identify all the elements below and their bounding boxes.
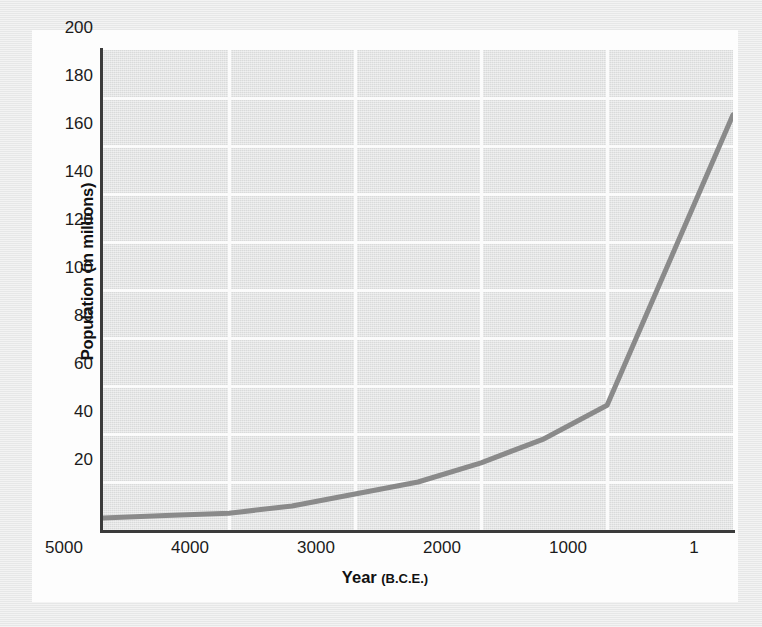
x-axis-title-sub: (B.C.E.) xyxy=(381,571,428,586)
chart-card: Population (in millions) 200 180 160 140… xyxy=(32,30,738,602)
y-tick-label-180: 180 xyxy=(41,66,93,86)
y-tick-label-160: 160 xyxy=(41,114,93,134)
plot-area xyxy=(103,50,733,530)
y-tick-label-80: 80 xyxy=(41,306,93,326)
y-tick-label-100: 100 xyxy=(41,258,93,278)
y-tick-label-60: 60 xyxy=(41,354,93,374)
y-tick-label-20: 20 xyxy=(41,450,93,470)
y-tick-label-140: 140 xyxy=(41,162,93,182)
y-tick-label-120: 120 xyxy=(41,210,93,230)
y-tick-label-40: 40 xyxy=(41,402,93,422)
x-tick-label-1000: 1000 xyxy=(528,538,608,558)
x-axis-title-main: Year xyxy=(342,568,377,586)
figure-page: Population (in millions) 200 180 160 140… xyxy=(0,0,762,627)
plot-area-wrapper xyxy=(103,50,733,530)
x-tick-label-2000: 2000 xyxy=(402,538,482,558)
x-tick-label-5000: 5000 xyxy=(24,538,104,558)
y-tick-label-200: 200 xyxy=(41,18,93,38)
x-axis-line xyxy=(101,530,735,533)
x-tick-label-3000: 3000 xyxy=(276,538,356,558)
x-tick-label-1: 1 xyxy=(654,538,734,558)
x-tick-label-4000: 4000 xyxy=(150,538,230,558)
population-line-series xyxy=(103,50,733,530)
x-axis-title: Year (B.C.E.) xyxy=(32,568,738,587)
series-polyline xyxy=(103,115,733,518)
